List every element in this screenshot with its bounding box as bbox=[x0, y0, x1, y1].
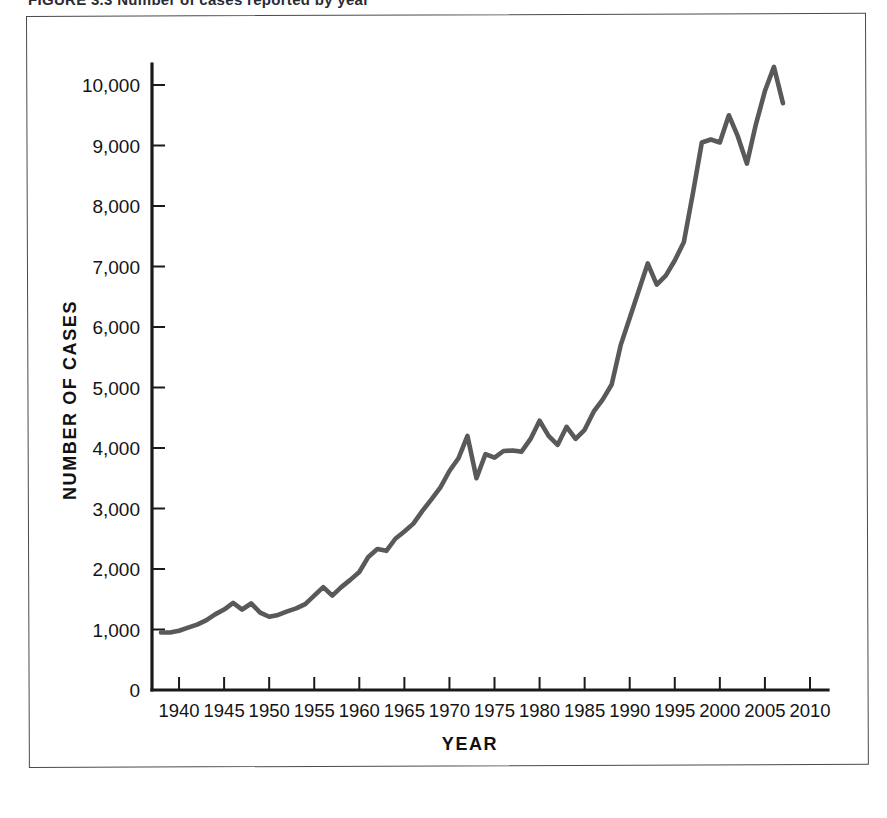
y-tick-labels: 01,0002,0003,0004,0005,0006,0007,0008,00… bbox=[82, 75, 140, 701]
y-tick-label: 5,000 bbox=[92, 378, 140, 399]
y-tick-marks bbox=[152, 85, 165, 630]
x-tick-label: 1990 bbox=[609, 700, 650, 721]
y-tick-label: 9,000 bbox=[92, 136, 140, 157]
x-tick-label: 1940 bbox=[158, 700, 199, 721]
line-chart: 01,0002,0003,0004,0005,0006,0007,0008,00… bbox=[0, 0, 887, 818]
x-tick-label: 2005 bbox=[744, 700, 785, 721]
y-tick-label: 1,000 bbox=[92, 620, 140, 641]
y-tick-label: 6,000 bbox=[92, 317, 140, 338]
y-tick-label: 2,000 bbox=[92, 559, 140, 580]
chart-canvas: 01,0002,0003,0004,0005,0006,0007,0008,00… bbox=[0, 0, 887, 818]
x-tick-labels: 1940194519501955196019651970197519801985… bbox=[158, 700, 830, 721]
y-tick-label: 8,000 bbox=[92, 196, 140, 217]
x-tick-label: 1950 bbox=[249, 700, 290, 721]
x-tick-label: 1975 bbox=[474, 700, 515, 721]
y-tick-label: 3,000 bbox=[92, 499, 140, 520]
y-tick-label: 0 bbox=[129, 680, 140, 701]
y-tick-label: 10,000 bbox=[82, 75, 140, 96]
x-tick-label: 1945 bbox=[204, 700, 245, 721]
y-tick-label: 7,000 bbox=[92, 257, 140, 278]
x-tick-label: 1980 bbox=[519, 700, 560, 721]
y-axis-title: NUMBER OF CASES bbox=[60, 300, 80, 500]
x-tick-label: 1955 bbox=[294, 700, 335, 721]
x-tick-label: 1960 bbox=[339, 700, 380, 721]
x-tick-label: 1965 bbox=[384, 700, 425, 721]
x-tick-label: 2010 bbox=[789, 700, 830, 721]
axes-group bbox=[152, 64, 828, 690]
x-tick-marks bbox=[179, 677, 810, 690]
y-tick-label: 4,000 bbox=[92, 438, 140, 459]
data-series-line bbox=[161, 67, 783, 633]
x-axis-title: YEAR bbox=[442, 734, 498, 754]
x-tick-label: 1970 bbox=[429, 700, 470, 721]
x-tick-label: 1985 bbox=[564, 700, 605, 721]
x-tick-label: 2000 bbox=[699, 700, 740, 721]
x-tick-label: 1995 bbox=[654, 700, 695, 721]
